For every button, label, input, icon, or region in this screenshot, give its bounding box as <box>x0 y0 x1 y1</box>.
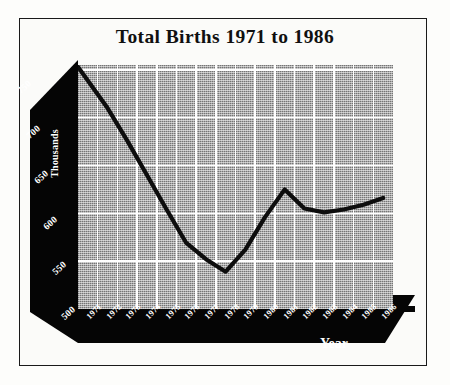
chart-page: Total Births 1971 to 1986 Thousands 5005… <box>0 0 450 385</box>
page-title: Total Births 1971 to 1986 <box>0 26 450 48</box>
x-axis-title: Year <box>320 336 348 352</box>
plot-area <box>78 65 393 309</box>
series-line-total-births <box>78 65 393 309</box>
y-axis-title: Thousands <box>49 129 60 178</box>
